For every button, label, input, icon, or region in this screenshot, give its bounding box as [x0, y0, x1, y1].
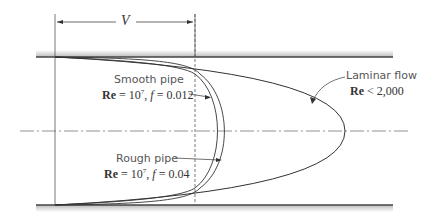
smooth-pipe-title: Smooth pipe: [114, 74, 184, 85]
laminar-flow-title: Laminar flow: [346, 70, 417, 81]
f-value: = 0.012: [154, 88, 194, 102]
re-symbol: Re: [102, 88, 116, 102]
rough-pipe-leader: [175, 158, 222, 162]
re-symbol: Re: [104, 167, 118, 181]
rough-pipe-title: Rough pipe: [116, 153, 178, 164]
pipe-bottom-wall: [36, 205, 393, 212]
smooth-pipe-params: Re = 107, f = 0.012: [102, 89, 193, 101]
re-condition: < 2,000: [364, 84, 404, 98]
velocity-profile-diagram: [0, 0, 427, 220]
re-value: = 10: [118, 167, 143, 181]
laminar-leader: [310, 77, 345, 104]
f-value: = 0.04: [156, 167, 190, 181]
re-symbol: Re: [350, 84, 364, 98]
rough-pipe-params: Re = 107, f = 0.04: [104, 168, 189, 180]
laminar-flow-params: Re < 2,000: [350, 85, 404, 97]
re-value: = 10: [116, 88, 141, 102]
pipe-top-wall: [36, 50, 393, 57]
dimension-v-label: V: [121, 14, 130, 28]
